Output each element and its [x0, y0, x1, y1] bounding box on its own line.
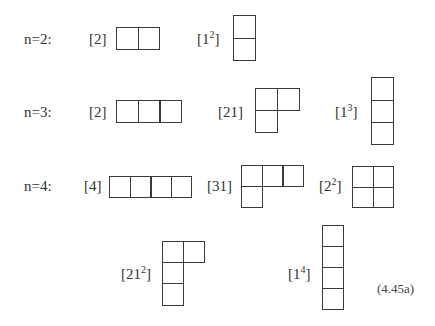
equation-number: (4.45a) [377, 281, 414, 297]
box-cell [241, 186, 263, 208]
box-cell [373, 187, 395, 209]
box-cell [233, 38, 256, 62]
box-cell [371, 122, 394, 145]
partition-label-4: [4] [84, 178, 102, 194]
box-cell [352, 166, 374, 188]
box-cell [138, 27, 161, 50]
box-cell [371, 77, 394, 101]
box-cell [322, 267, 344, 289]
young-diagram-31 [241, 165, 304, 208]
box-cell [171, 176, 193, 198]
box-cell [322, 246, 344, 268]
young-diagram-1-fourth [322, 225, 344, 311]
box-cell [109, 176, 131, 198]
box-cell [241, 165, 263, 187]
box-cell [130, 176, 152, 198]
young-diagram-2-squared [352, 166, 394, 208]
partition-label-1-squared: [12] [197, 31, 220, 47]
box-cell [138, 100, 161, 123]
young-diagram-3 [116, 100, 182, 123]
partition-label-1-fourth: [14] [288, 266, 311, 282]
box-cell [116, 27, 139, 50]
box-cell [282, 165, 304, 187]
young-diagram-1-cubed [371, 77, 394, 145]
young-diagram-1-squared [233, 15, 256, 61]
row-label-n4: n=4: [24, 178, 52, 194]
partition-label-2: [2] [89, 31, 107, 47]
box-cell [373, 166, 395, 188]
box-cell [352, 187, 374, 209]
young-diagram-4 [109, 176, 192, 198]
box-cell [322, 225, 344, 247]
box-cell [162, 262, 184, 285]
box-cell [150, 176, 172, 198]
row-label-n2: n=2: [24, 31, 52, 47]
partition-label-2-squared: [22] [319, 178, 342, 194]
partition-label-21: [21] [218, 104, 243, 120]
partition-label-31: [31] [207, 178, 232, 194]
row-label-n3: n=3: [24, 104, 52, 120]
box-cell [183, 241, 205, 263]
partition-label-1-cubed: [13] [335, 104, 358, 120]
young-diagram-21 [255, 88, 300, 133]
young-diagram-2 [116, 27, 160, 50]
partition-label-3: [2] [89, 104, 107, 120]
box-cell [322, 288, 344, 310]
box-cell [255, 110, 278, 134]
box-cell [162, 241, 184, 263]
box-cell [262, 165, 284, 187]
young-diagrams-figure: n=2: n=3: n=4: [2] [12] [2] [21] [13] [0, 0, 435, 326]
box-cell [371, 100, 394, 124]
box-cell [255, 88, 278, 111]
box-cell [159, 100, 182, 123]
young-diagram-21-squared [162, 241, 205, 306]
box-cell [162, 283, 184, 306]
partition-label-21-squared: [212] [121, 266, 151, 282]
box-cell [116, 100, 139, 123]
box-cell [233, 15, 256, 39]
box-cell [277, 88, 301, 111]
